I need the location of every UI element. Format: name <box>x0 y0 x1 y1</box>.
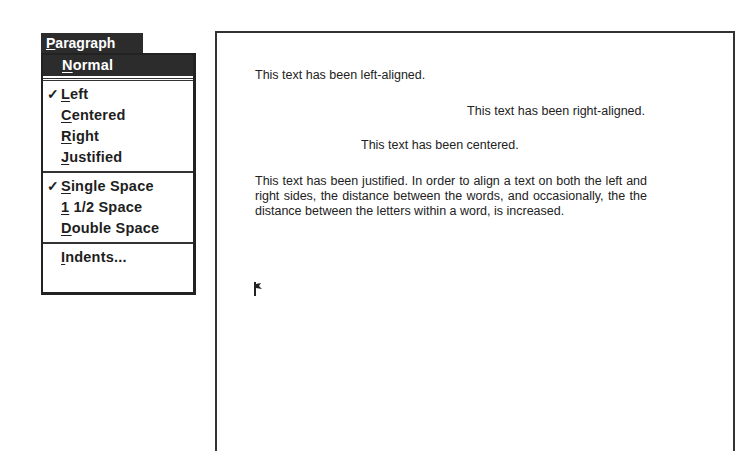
menu-item-single-space[interactable]: ✓Single Space <box>43 176 193 197</box>
menu-separator <box>43 242 193 244</box>
document-area[interactable]: This text has been left-aligned. This te… <box>215 31 735 451</box>
menu-separator <box>43 171 193 173</box>
right-aligned-text: This text has been right-aligned. <box>467 104 645 118</box>
left-aligned-text: This text has been left-aligned. <box>255 68 425 82</box>
menu-item-left[interactable]: ✓Left <box>43 84 193 105</box>
menu-item-double-space[interactable]: Double Space <box>43 218 193 239</box>
menu-item-right[interactable]: Right <box>43 126 193 147</box>
menu-item-indents[interactable]: Indents... <box>43 247 193 268</box>
centered-text: This text has been centered. <box>361 138 519 152</box>
menu-item-normal[interactable]: Normal <box>43 55 193 76</box>
menu-title-mnemonic: P <box>46 35 55 51</box>
menu-item-one-and-half-space[interactable]: 1 1/2 Space <box>43 197 193 218</box>
menu-item-justified[interactable]: Justified <box>43 147 193 168</box>
checkmark-icon: ✓ <box>47 84 59 105</box>
justified-text: This text has been justified. In order t… <box>255 174 647 219</box>
paragraph-menu: Normal ✓Left Centered Right Justified ✓S… <box>41 53 196 295</box>
menu-separator <box>43 78 193 81</box>
menu-title-rest: aragraph <box>55 35 115 51</box>
menu-title-paragraph[interactable]: Paragraph <box>41 33 143 53</box>
menu-item-centered[interactable]: Centered <box>43 105 193 126</box>
text-cursor-icon <box>254 282 264 296</box>
checkmark-icon: ✓ <box>47 176 59 197</box>
